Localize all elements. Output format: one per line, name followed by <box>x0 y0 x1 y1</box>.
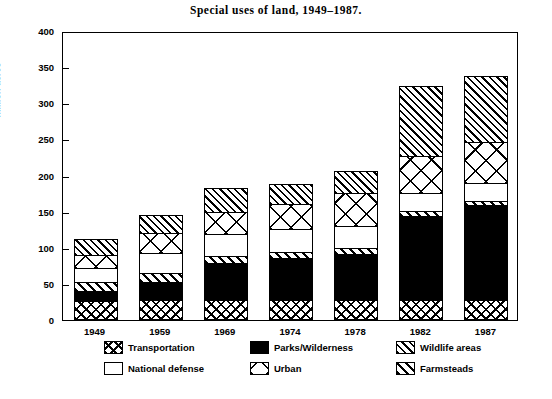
legend-swatch-icon <box>104 362 123 375</box>
bar-segment-wildlife-areas-1982[interactable] <box>399 86 443 157</box>
bar-segment-urban-1959[interactable] <box>139 233 183 254</box>
bar-segment-urban-1974[interactable] <box>269 204 313 230</box>
x-axis-tick-1987: 1987 <box>450 326 520 337</box>
legend-label: National defense <box>128 363 204 374</box>
x-axis-tick-1978: 1978 <box>320 326 390 337</box>
bar-1978[interactable] <box>334 31 378 320</box>
bar-segment-transportation-1959[interactable] <box>139 300 183 320</box>
y-axis-tick-200: 200 <box>8 172 54 182</box>
bar-1987[interactable] <box>464 31 508 320</box>
y-axis-label: million acres <box>0 30 2 150</box>
legend-swatch-icon <box>396 362 415 375</box>
bar-segment-wildlife-areas-1959[interactable] <box>139 215 183 234</box>
bar-segment-parks-wilderness-1982[interactable] <box>399 216 443 300</box>
bar-segment-wildlife-areas-1949[interactable] <box>74 239 118 257</box>
bar-segment-parks-wilderness-1978[interactable] <box>334 254 378 301</box>
bar-segment-parks-wilderness-1987[interactable] <box>464 205 508 301</box>
bar-segment-transportation-1949[interactable] <box>74 301 118 320</box>
legend-swatch-icon <box>396 341 415 354</box>
bar-segment-wildlife-areas-1987[interactable] <box>464 76 508 143</box>
y-axis-tick-150: 150 <box>8 208 54 218</box>
legend-item-urban[interactable]: Urban <box>250 362 301 375</box>
legend-swatch-icon <box>104 341 123 354</box>
y-axis-tickmark <box>63 104 69 105</box>
bar-segment-transportation-1987[interactable] <box>464 299 508 320</box>
bar-segment-transportation-1982[interactable] <box>399 299 443 320</box>
legend-label: Parks/Wilderness <box>274 342 353 353</box>
plot-area <box>62 32 518 321</box>
bar-segment-national-defense-1959[interactable] <box>139 253 183 274</box>
x-axis-tick-1969: 1969 <box>190 326 260 337</box>
bar-segment-transportation-1969[interactable] <box>204 300 248 320</box>
bar-segment-parks-wilderness-1969[interactable] <box>204 263 248 301</box>
x-axis-tick-1982: 1982 <box>385 326 455 337</box>
y-axis-tickmark <box>63 249 69 250</box>
y-axis-tickmark <box>63 285 69 286</box>
legend-label: Farmsteads <box>420 363 473 374</box>
bar-segment-national-defense-1982[interactable] <box>399 193 443 212</box>
x-axis-tick-1974: 1974 <box>255 326 325 337</box>
y-axis-tick-250: 250 <box>8 135 54 145</box>
bar-segment-parks-wilderness-1959[interactable] <box>139 282 183 301</box>
bar-1949[interactable] <box>74 31 118 320</box>
bar-segment-urban-1978[interactable] <box>334 193 378 227</box>
bar-segment-wildlife-areas-1974[interactable] <box>269 184 313 205</box>
x-axis-tick-1949: 1949 <box>60 326 130 337</box>
y-axis-tick-100: 100 <box>8 244 54 254</box>
bar-segment-transportation-1978[interactable] <box>334 300 378 320</box>
bar-segment-national-defense-1969[interactable] <box>204 234 248 257</box>
legend-item-transportation[interactable]: Transportation <box>104 341 195 354</box>
bar-1959[interactable] <box>139 31 183 320</box>
y-axis-tick-400: 400 <box>8 27 54 37</box>
bar-segment-farmsteads-1949[interactable] <box>74 282 118 292</box>
legend-swatch-icon <box>250 362 269 375</box>
bar-segment-national-defense-1974[interactable] <box>269 229 313 253</box>
bar-segment-wildlife-areas-1969[interactable] <box>204 188 248 213</box>
bar-1974[interactable] <box>269 31 313 320</box>
y-axis-tickmark <box>63 68 69 69</box>
bar-segment-parks-wilderness-1949[interactable] <box>74 291 118 302</box>
y-axis-tick-300: 300 <box>8 99 54 109</box>
y-axis-tick-50: 50 <box>8 280 54 290</box>
bar-segment-national-defense-1978[interactable] <box>334 226 378 250</box>
chart-container: Special uses of land, 1949–1987. million… <box>0 0 552 399</box>
y-axis-tickmark <box>63 177 69 178</box>
legend-label: Wildlife areas <box>420 342 481 353</box>
bar-1969[interactable] <box>204 31 248 320</box>
bar-segment-urban-1969[interactable] <box>204 212 248 236</box>
legend-item-wildlife-areas[interactable]: Wildlife areas <box>396 341 481 354</box>
bar-segment-urban-1982[interactable] <box>399 156 443 194</box>
legend-label: Transportation <box>128 342 195 353</box>
y-axis-tick-350: 350 <box>8 63 54 73</box>
bar-segment-farmsteads-1969[interactable] <box>204 256 248 264</box>
legend-item-farmsteads[interactable]: Farmsteads <box>396 362 473 375</box>
bar-segment-transportation-1974[interactable] <box>269 300 313 320</box>
bar-segment-wildlife-areas-1978[interactable] <box>334 171 378 195</box>
chart-legend: TransportationParks/WildernessWildlife a… <box>104 341 524 387</box>
bar-segment-national-defense-1949[interactable] <box>74 268 118 283</box>
chart-title: Special uses of land, 1949–1987. <box>0 4 552 16</box>
bar-segment-national-defense-1987[interactable] <box>464 183 508 202</box>
bar-segment-urban-1987[interactable] <box>464 142 508 184</box>
y-axis-tickmark <box>63 140 69 141</box>
bar-1982[interactable] <box>399 31 443 320</box>
legend-swatch-icon <box>250 341 269 354</box>
bar-segment-farmsteads-1959[interactable] <box>139 273 183 283</box>
x-axis-tick-1959: 1959 <box>125 326 195 337</box>
legend-item-parks-wilderness[interactable]: Parks/Wilderness <box>250 341 353 354</box>
bar-segment-parks-wilderness-1974[interactable] <box>269 258 313 301</box>
y-axis-tickmark <box>63 213 69 214</box>
y-axis-tick-0: 0 <box>8 316 54 326</box>
bar-segment-urban-1949[interactable] <box>74 255 118 269</box>
legend-label: Urban <box>274 363 301 374</box>
legend-item-national-defense[interactable]: National defense <box>104 362 204 375</box>
